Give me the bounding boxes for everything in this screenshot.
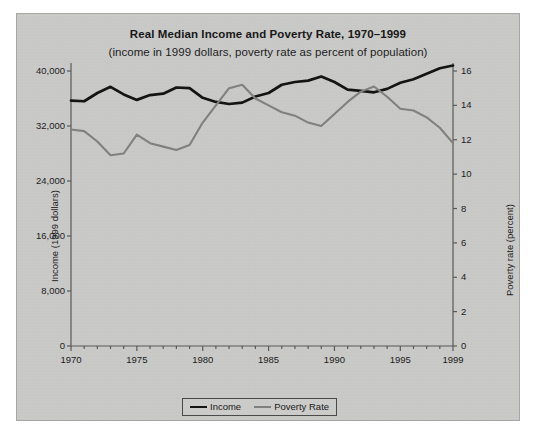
y-tick-right-12: 12 [461, 134, 491, 145]
y-tick-left-32000: 32,000 [21, 120, 65, 131]
chart-figure: Real Median Income and Poverty Rate, 197… [16, 13, 520, 421]
chart-legend: Income Poverty Rate [182, 398, 337, 416]
x-tick-1980: 1980 [183, 354, 223, 365]
legend-label-income: Income [210, 401, 241, 412]
y-tick-left-40000: 40,000 [21, 65, 65, 76]
legend-swatch-income [190, 406, 207, 408]
y-tick-left-8000: 8,000 [21, 285, 65, 296]
x-tick-1999: 1999 [433, 354, 473, 365]
y-tick-right-16: 16 [461, 65, 491, 76]
y-axis-label-right: Poverty rate (percent) [504, 204, 515, 296]
x-tick-1970: 1970 [51, 354, 91, 365]
y-tick-right-8: 8 [461, 203, 491, 214]
y-tick-right-6: 6 [461, 237, 491, 248]
legend-label-poverty-rate: Poverty Rate [274, 401, 329, 412]
y-tick-left-0: 0 [21, 340, 65, 351]
x-tick-1985: 1985 [249, 354, 289, 365]
y-tick-left-24000: 24,000 [21, 175, 65, 186]
y-tick-right-14: 14 [461, 99, 491, 110]
series-line-income [71, 66, 453, 105]
y-tick-right-2: 2 [461, 306, 491, 317]
y-tick-right-10: 10 [461, 168, 491, 179]
x-tick-1975: 1975 [117, 354, 157, 365]
x-tick-1995: 1995 [380, 354, 420, 365]
y-tick-right-0: 0 [461, 340, 491, 351]
legend-item-poverty-rate: Poverty Rate [254, 401, 329, 412]
legend-item-income: Income [190, 401, 241, 412]
y-tick-left-16000: 16,000 [21, 230, 65, 241]
legend-swatch-poverty-rate [254, 406, 271, 408]
y-tick-right-4: 4 [461, 271, 491, 282]
data-series [71, 66, 453, 156]
x-tick-1990: 1990 [314, 354, 354, 365]
